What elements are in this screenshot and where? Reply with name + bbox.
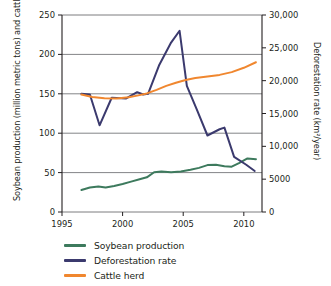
y-axis-right-tick-label: 5000 <box>269 174 290 184</box>
legend-color-swatch <box>64 274 86 277</box>
y-axis-left-tick-label: 50 <box>44 168 55 178</box>
gridlines <box>62 15 262 212</box>
y-axis-right-tick-label: 10,000 <box>269 141 298 151</box>
y-axis-right-tick-label: 25,000 <box>269 43 298 53</box>
chart-figure: Soybean production (million metric tons)… <box>0 0 331 286</box>
x-axis-ticks: 1995200020052010 <box>51 212 254 229</box>
chart-legend: Soybean productionDeforestation rateCatt… <box>64 238 304 283</box>
legend-item-label: Cattle herd <box>94 270 144 281</box>
y-axis-left-tick-label: 150 <box>39 89 55 99</box>
x-axis-tick-label: 2000 <box>112 219 133 229</box>
y-axis-left-tick-label: 100 <box>39 128 55 138</box>
y-axis-left-tick-label: 200 <box>39 49 55 59</box>
legend-color-swatch <box>64 244 86 247</box>
y-axis-right-tick-label: 15,000 <box>269 109 298 119</box>
x-axis-tick-label: 2005 <box>173 219 194 229</box>
legend-item[interactable]: Cattle herd <box>64 268 304 283</box>
x-axis-tick-label: 2010 <box>233 219 254 229</box>
y-axis-right-ticks: 0500010,00015,00020,00025,00030,000 <box>262 10 298 217</box>
x-axis-tick-label: 1995 <box>51 219 72 229</box>
legend-color-swatch <box>64 259 86 262</box>
legend-item-label: Deforestation rate <box>94 255 176 266</box>
y-axis-left-ticks: 050100150200250 <box>39 10 62 217</box>
series-line <box>81 158 256 190</box>
y-axis-left-tick-label: 0 <box>50 207 55 217</box>
y-axis-right-tick-label: 20,000 <box>269 76 298 86</box>
y-axis-left-tick-label: 250 <box>39 10 55 20</box>
series-line <box>81 62 256 98</box>
legend-item-label: Soybean production <box>94 240 184 251</box>
legend-item[interactable]: Deforestation rate <box>64 253 304 268</box>
y-axis-right-tick-label: 30,000 <box>269 10 298 20</box>
plot-area: 050100150200250 0500010,00015,00020,0002… <box>0 0 331 236</box>
series-line <box>81 31 254 171</box>
y-axis-right-tick-label: 0 <box>269 207 274 217</box>
legend-item[interactable]: Soybean production <box>64 238 304 253</box>
